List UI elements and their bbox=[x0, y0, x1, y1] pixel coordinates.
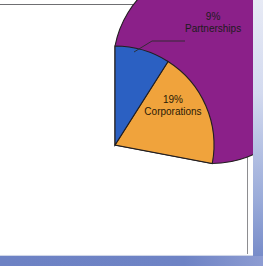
slice-label-sole-proprietorships: 72% Sole Proprietorships bbox=[17, 158, 153, 182]
scanned-page: 9% Partnerships 19% Corporations 72% Sol… bbox=[0, 0, 263, 266]
slice-label-partnerships-name: Partnerships bbox=[185, 23, 241, 35]
slice-label-corporations-value: 19% bbox=[131, 94, 215, 106]
slice-label-partnerships-value: 9% bbox=[185, 11, 241, 23]
page-edge-bottom bbox=[0, 256, 263, 266]
slice-label-corporations-name: Corporations bbox=[131, 106, 215, 118]
page-edge-right bbox=[253, 0, 263, 266]
slice-label-sole-proprietorships-name: Sole Proprietorships bbox=[17, 170, 153, 182]
slice-label-partnerships: 9% Partnerships bbox=[185, 11, 241, 35]
slice-label-sole-proprietorships-value: 72% bbox=[17, 158, 153, 170]
slice-label-corporations: 19% Corporations bbox=[131, 94, 215, 118]
pie-chart-svg bbox=[0, 0, 263, 266]
pie-chart bbox=[0, 0, 263, 266]
